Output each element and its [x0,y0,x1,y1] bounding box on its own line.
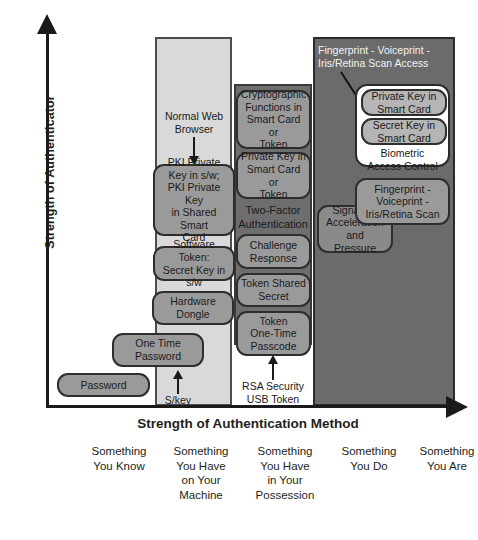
x-axis-arrowhead [446,396,468,418]
node-software-token[interactable]: Software Token: Secret Key in s/w [153,246,235,281]
node-challenge-response[interactable]: Challenge Response [236,234,311,269]
node-secret-key-smart-card[interactable]: Secret Key in Smart Card [361,118,447,145]
node-cryptographic-functions[interactable]: Cryptographic Functions in Smart Card or… [236,90,311,149]
diagram-canvas: Password Normal Web Browser PKI Private … [0,0,478,540]
category-label-something-you-have-on-your-machine: Something You Have on Your Machine [158,444,244,502]
x-axis-line [46,405,450,408]
connector-skey-arrowhead [173,370,183,379]
annotation-normal-web-browser: Normal Web Browser [155,110,233,135]
category-label-something-you-are: Something You Are [404,444,478,473]
y-axis-title: Strength of Authenticator [43,62,57,282]
node-token-shared-secret[interactable]: Token Shared Secret [236,273,311,307]
connector-rsa-usb-token [272,362,274,380]
annotation-rsa-security-usb-token: RSA Security USB Token [230,380,316,405]
panel-biometric-access-control: Private Key in Smart Card Secret Key in … [355,84,450,167]
node-private-key-smart-card-or-token[interactable]: Private Key in Smart Card or Token [236,152,311,199]
node-pki-private-key[interactable]: PKI Private Key in s/w; PKI Private Key … [153,164,235,236]
category-label-something-you-do: Something You Do [326,444,412,473]
annotation-biometric-access-control: Biometric Access Control [357,147,448,172]
node-private-key-smart-card[interactable]: Private Key in Smart Card [361,89,447,116]
annotation-fingerprint-voiceprint-access: Fingerprint - Voiceprint - Iris/Retina S… [318,44,458,69]
category-label-row: Something You Know Something You Have on… [46,444,466,524]
x-axis-title: Strength of Authentication Method [46,416,450,431]
node-password[interactable]: Password [57,373,150,397]
node-fingerprint-voiceprint-scan[interactable]: Fingerprint - Voiceprint - Iris/Retina S… [355,178,450,225]
category-label-something-you-have-in-your-possession: Something You Have in Your Possession [242,444,328,502]
node-one-time-password[interactable]: One Time Password [112,333,204,367]
node-hardware-dongle[interactable]: Hardware Dongle [152,291,234,325]
category-label-something-you-know: Something You Know [76,444,162,473]
node-token-one-time-passcode[interactable]: Token One-Time Passcode [236,311,311,356]
connector-rsa-usb-token-arrowhead [268,355,278,364]
connector-normal-web-browser [193,137,195,158]
connector-skey [177,377,179,394]
annotation-two-factor-authentication: Two-Factor Authentication [234,204,312,231]
